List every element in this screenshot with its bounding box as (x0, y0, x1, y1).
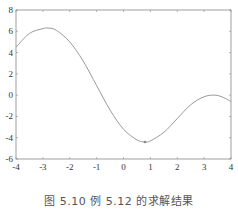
x-tick-label: 4 (229, 162, 234, 172)
figure-caption: 图 5.10 例 5.12 的求解结果 (0, 192, 238, 208)
plot-axes (16, 10, 231, 159)
x-tick-label: -1 (93, 162, 101, 172)
data-markers (144, 141, 147, 144)
y-tick-label: 6 (9, 26, 14, 36)
x-tick-label: 1 (148, 162, 153, 172)
x-tick-label: -2 (66, 162, 74, 172)
x-tick-label: 0 (121, 162, 126, 172)
y-tick-label: -2 (6, 111, 14, 121)
x-tick-label: 3 (202, 162, 207, 172)
x-tick-label: -4 (12, 162, 20, 172)
data-curve (16, 28, 231, 142)
y-tick-label: 4 (9, 48, 14, 58)
x-tick-label: -3 (39, 162, 47, 172)
line-chart: -4-3-2-101234-6-4-202468 (0, 0, 238, 192)
y-tick-label: -6 (6, 154, 14, 164)
y-tick-label: 8 (9, 5, 14, 15)
y-tick-label: 2 (9, 69, 14, 79)
axis-tick-labels: -4-3-2-101234-6-4-202468 (6, 5, 234, 172)
x-tick-label: 2 (175, 162, 180, 172)
minimum-marker (144, 141, 147, 144)
axis-ticks (16, 10, 231, 159)
y-tick-label: 0 (9, 90, 14, 100)
y-tick-label: -4 (6, 133, 14, 143)
